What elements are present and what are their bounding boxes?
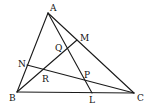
- segment-bm: [17, 40, 77, 92]
- label-n: N: [18, 59, 26, 69]
- label-a: A: [49, 3, 57, 13]
- label-b: B: [9, 93, 16, 103]
- segment-ca: [48, 13, 134, 93]
- label-c: C: [137, 93, 144, 103]
- label-l: L: [89, 95, 95, 105]
- label-r: R: [42, 74, 49, 84]
- label-q: Q: [55, 43, 62, 53]
- segment-al: [48, 13, 92, 93]
- label-m: M: [80, 33, 89, 43]
- label-p: P: [84, 70, 90, 80]
- segment-bc: [17, 92, 134, 93]
- triangle-diagram: A B C M N L Q R P: [0, 0, 153, 110]
